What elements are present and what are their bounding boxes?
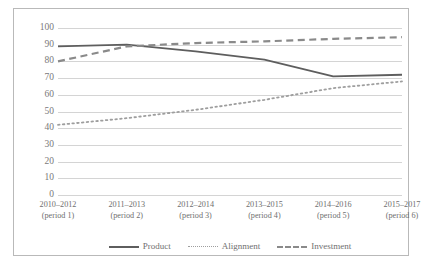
series-line — [58, 81, 402, 124]
plot-area — [58, 28, 402, 195]
x-axis-tick-label: 2010–2012(period 1) — [23, 199, 93, 221]
x-axis-tick-label: 2014–2016(period 5) — [298, 199, 368, 221]
x-axis-tick-period: (period 2) — [92, 210, 162, 221]
x-axis-tick-label: 2011–2013(period 2) — [92, 199, 162, 221]
chart-frame: 1009080706050403020100 2010–2012(period … — [13, 8, 409, 256]
y-axis-tick-label: 90 — [24, 40, 54, 50]
x-axis-tick-label: 2015–2017(period 6) — [367, 199, 426, 221]
y-axis-tick-label: 60 — [24, 90, 54, 100]
legend-item-investment[interactable]: Investment — [277, 242, 351, 251]
legend-label: Investment — [311, 242, 351, 251]
x-axis-tick-period: (period 6) — [367, 210, 426, 221]
x-axis-tick-range: 2015–2017 — [384, 200, 421, 209]
x-axis-tick-range: 2014–2016 — [315, 200, 352, 209]
x-axis: 2010–2012(period 1)2011–2013(period 2)20… — [58, 199, 402, 229]
legend-swatch-icon — [188, 243, 218, 249]
y-axis: 1009080706050403020100 — [22, 28, 54, 195]
legend-label: Product — [143, 242, 171, 251]
x-axis-tick-period: (period 1) — [23, 210, 93, 221]
chart-legend: ProductAlignmentInvestment — [58, 238, 402, 254]
y-axis-tick-label: 10 — [24, 173, 54, 183]
series-container — [58, 28, 402, 195]
legend-label: Alignment — [222, 242, 261, 251]
y-axis-tick-label: 70 — [24, 73, 54, 83]
legend-swatch-icon — [277, 243, 307, 249]
y-axis-tick-label: 40 — [24, 123, 54, 133]
y-axis-tick-label: 100 — [24, 23, 54, 33]
x-axis-tick-label: 2012–2014(period 3) — [161, 199, 231, 221]
series-line — [58, 37, 402, 61]
x-axis-tick-range: 2012–2014 — [177, 200, 214, 209]
x-axis-tick-label: 2013–2015(period 4) — [229, 199, 299, 221]
x-axis-tick-period: (period 5) — [298, 210, 368, 221]
gridline — [58, 195, 402, 196]
legend-item-product[interactable]: Product — [109, 242, 171, 251]
y-axis-tick-label: 80 — [24, 56, 54, 66]
y-axis-tick-label: 20 — [24, 157, 54, 167]
y-axis-tick-label: 30 — [24, 140, 54, 150]
legend-swatch-icon — [109, 243, 139, 249]
x-axis-tick-period: (period 3) — [161, 210, 231, 221]
x-axis-tick-range: 2013–2015 — [246, 200, 283, 209]
legend-item-alignment[interactable]: Alignment — [188, 242, 261, 251]
x-axis-tick-range: 2010–2012 — [40, 200, 77, 209]
y-axis-tick-label: 50 — [24, 107, 54, 117]
x-axis-tick-period: (period 4) — [229, 210, 299, 221]
x-axis-tick-range: 2011–2013 — [109, 200, 146, 209]
